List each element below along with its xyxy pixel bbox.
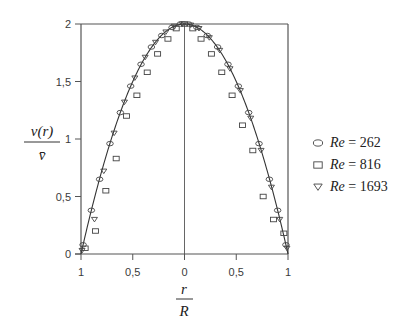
y-tick-label: 1,5 <box>56 76 71 88</box>
y-tick-label: 2 <box>65 18 71 30</box>
square-marker <box>198 37 204 42</box>
square-marker <box>271 217 277 222</box>
x-tick-label: 1 <box>285 266 291 278</box>
square-marker <box>229 93 235 98</box>
x-tick-label: 0,5 <box>229 266 244 278</box>
x-axis-title: r R <box>176 281 193 319</box>
legend-item-label: Re = 262 <box>329 135 381 150</box>
triangle-down-marker <box>314 184 322 190</box>
y-tick-label: 0 <box>65 248 71 260</box>
x-axis-title-numerator: r <box>181 281 187 297</box>
square-marker <box>208 52 214 57</box>
square-marker <box>239 123 245 128</box>
square-marker <box>92 229 98 234</box>
square-marker <box>134 93 140 98</box>
square-marker <box>260 194 266 199</box>
x-tick-label: 0,5 <box>125 266 140 278</box>
x-axis-title-denominator: R <box>178 303 188 319</box>
y-axis-title: v(r) v̄ <box>24 123 60 163</box>
ellipse-marker <box>313 140 322 146</box>
x-tick-label: 0 <box>181 266 187 278</box>
square-marker <box>144 70 150 75</box>
x-tick-label: 1 <box>78 266 84 278</box>
square-marker <box>165 37 171 42</box>
y-tick-label: 1 <box>65 133 71 145</box>
velocity-profile-chart: 00,511,5210,500,51 v(r) v̄ r R Re = 262R… <box>0 0 398 328</box>
legend-item-label: Re = 1693 <box>329 179 388 194</box>
square-marker <box>124 114 130 119</box>
triangle-down-marker <box>91 217 97 222</box>
square-marker <box>155 52 161 57</box>
square-marker <box>314 162 322 168</box>
square-marker <box>219 70 225 75</box>
legend: Re = 262Re = 816Re = 1693 <box>313 135 387 194</box>
y-axis-title-denominator: v̄ <box>39 147 46 163</box>
y-tick-label: 0,5 <box>56 191 71 203</box>
legend-item-label: Re = 816 <box>329 157 381 172</box>
square-marker <box>113 156 119 161</box>
square-marker <box>250 148 256 153</box>
y-axis-title-numerator: v(r) <box>31 123 54 140</box>
square-marker <box>103 189 109 194</box>
